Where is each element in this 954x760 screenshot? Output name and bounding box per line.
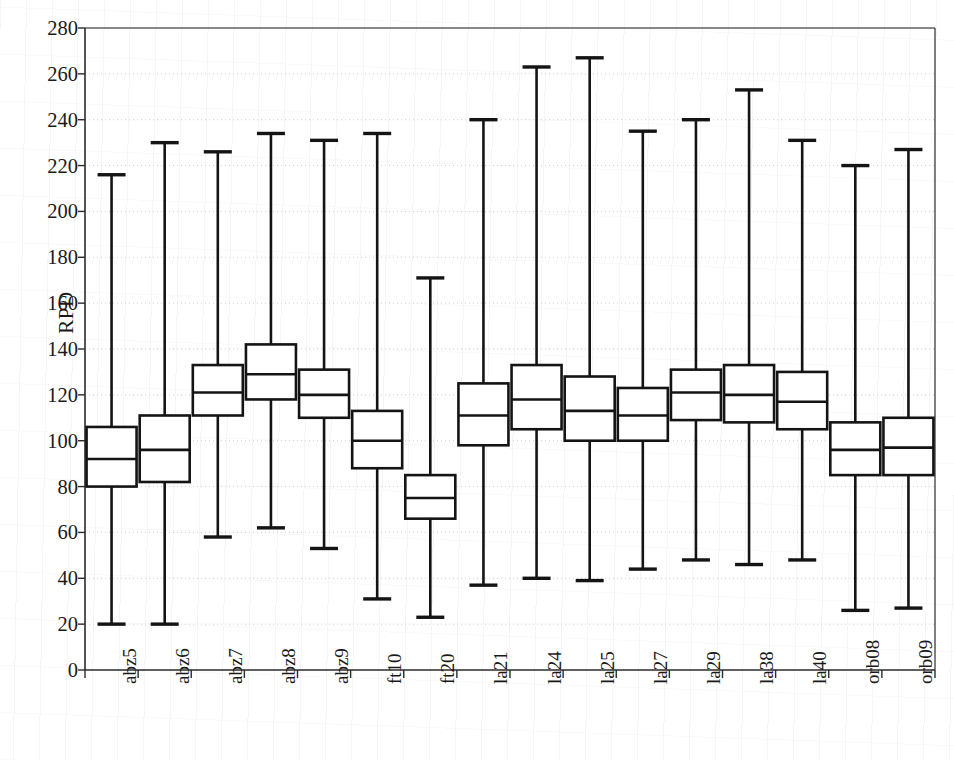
box-plot-series-la21 (458, 120, 508, 585)
x-tick-label-abz6: abz6 (173, 648, 192, 684)
box-plot-series-orb08 (830, 166, 880, 611)
box-iqr (87, 427, 137, 487)
box-plot-series-la27 (618, 131, 668, 569)
x-tick-label-abz9: abz9 (332, 648, 351, 684)
x-tick-label-la25: la25 (598, 651, 617, 684)
box-plot-series-abz7 (193, 152, 243, 537)
box-plot-series-abz6 (140, 143, 190, 625)
box-iqr (671, 370, 721, 420)
box-plot-series-abz5 (87, 175, 137, 624)
x-tick-label-la24: la24 (545, 651, 564, 684)
box-plot-series-la24 (512, 67, 562, 578)
x-tick-label-abz7: abz7 (226, 648, 245, 684)
x-tick-label-orb08: orb08 (863, 640, 882, 684)
box-iqr (246, 344, 296, 399)
box-plot-series-la25 (565, 58, 615, 581)
box-plot-series-ft10 (352, 133, 402, 598)
box-plot-chart: RPD 020406080100120140160180200220240260… (0, 0, 954, 760)
box-plot-series-orb09 (883, 150, 933, 609)
box-plot-series-abz9 (299, 140, 349, 548)
x-tick-label-ft10: ft10 (385, 653, 404, 684)
x-tick-label-la29: la29 (704, 651, 723, 684)
x-tick-label-orb09: orb09 (916, 640, 935, 684)
box-iqr (565, 377, 615, 441)
x-tick-label-abz8: abz8 (279, 648, 298, 684)
box-plot-series-ft20 (405, 278, 455, 617)
box-plot-series-la40 (777, 140, 827, 560)
x-tick-label-la27: la27 (651, 651, 670, 684)
box-iqr (193, 365, 243, 415)
box-iqr (512, 365, 562, 429)
x-tick-label-la38: la38 (757, 651, 776, 684)
x-tick-label-ft20: ft20 (438, 653, 457, 684)
box-plot-series-la29 (671, 120, 721, 560)
x-tick-label-abz5: abz5 (120, 648, 139, 684)
box-plot-series-abz8 (246, 133, 296, 527)
x-tick-label-la40: la40 (810, 651, 829, 684)
box-plot-series-la38 (724, 90, 774, 565)
x-tick-label-la21: la21 (491, 651, 510, 684)
plot-area (0, 0, 954, 760)
